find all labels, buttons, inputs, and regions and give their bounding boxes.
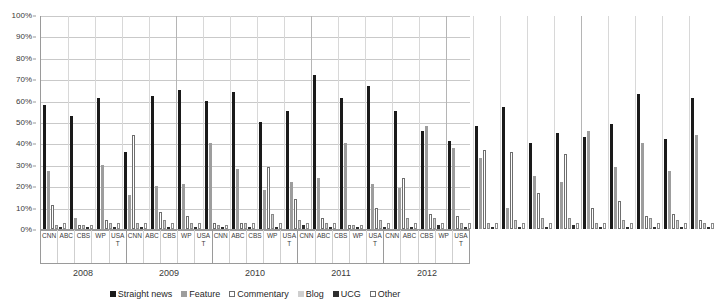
bar[interactable] xyxy=(313,75,316,229)
bar[interactable] xyxy=(421,131,424,229)
bar[interactable] xyxy=(560,182,563,229)
bar[interactable] xyxy=(506,208,509,229)
legend-item[interactable]: Other xyxy=(370,290,401,299)
bar[interactable] xyxy=(367,86,370,229)
bar[interactable] xyxy=(190,223,193,229)
bar[interactable] xyxy=(406,218,409,229)
bar[interactable] xyxy=(460,223,463,229)
bar[interactable] xyxy=(248,227,251,229)
bar[interactable] xyxy=(151,96,154,229)
bar[interactable] xyxy=(529,143,532,229)
bar[interactable] xyxy=(433,218,436,229)
bar[interactable] xyxy=(352,225,355,229)
bar[interactable] xyxy=(59,227,62,229)
bar[interactable] xyxy=(244,223,247,229)
bar[interactable] xyxy=(171,223,174,229)
bar[interactable] xyxy=(518,227,521,229)
bar[interactable] xyxy=(55,225,58,229)
bar[interactable] xyxy=(43,105,46,229)
bar[interactable] xyxy=(479,158,482,229)
bar[interactable] xyxy=(587,131,590,229)
bar[interactable] xyxy=(549,223,552,229)
bar[interactable] xyxy=(101,165,104,229)
bar[interactable] xyxy=(132,135,135,229)
bar[interactable] xyxy=(213,223,216,229)
bar[interactable] xyxy=(653,227,656,229)
bar[interactable] xyxy=(82,225,85,229)
bar[interactable] xyxy=(294,199,297,229)
bar[interactable] xyxy=(452,148,455,229)
bar[interactable] xyxy=(637,94,640,229)
legend-item[interactable]: Commentary xyxy=(229,290,289,299)
legend-item[interactable]: Feature xyxy=(181,290,220,299)
bar[interactable] xyxy=(649,218,652,229)
bar[interactable] xyxy=(356,227,359,229)
bar[interactable] xyxy=(306,223,309,229)
bar[interactable] xyxy=(622,220,625,229)
bar[interactable] xyxy=(676,220,679,229)
bar[interactable] xyxy=(47,171,50,229)
bar[interactable] xyxy=(232,92,235,229)
bar[interactable] xyxy=(441,223,444,229)
bar[interactable] xyxy=(182,184,185,229)
bar[interactable] xyxy=(74,218,77,229)
bar[interactable] xyxy=(595,223,598,229)
bar[interactable] xyxy=(225,225,228,229)
bar[interactable] xyxy=(691,98,694,229)
bar[interactable] xyxy=(495,223,498,229)
bar[interactable] xyxy=(186,216,189,229)
bar[interactable] xyxy=(699,220,702,229)
bar[interactable] xyxy=(51,205,54,229)
bar[interactable] xyxy=(599,227,602,229)
bar[interactable] xyxy=(124,152,127,229)
bar[interactable] xyxy=(448,141,451,229)
bar[interactable] xyxy=(360,225,363,229)
bar[interactable] xyxy=(583,137,586,229)
bar[interactable] xyxy=(695,135,698,229)
bar[interactable] xyxy=(333,223,336,229)
bar[interactable] xyxy=(614,167,617,229)
bar[interactable] xyxy=(109,223,112,229)
bar[interactable] xyxy=(680,227,683,229)
bar[interactable] xyxy=(564,154,567,229)
bar[interactable] xyxy=(240,223,243,229)
bar[interactable] xyxy=(383,227,386,229)
bar[interactable] xyxy=(618,201,621,229)
legend-item[interactable]: Blog xyxy=(298,290,324,299)
bar[interactable] xyxy=(402,178,405,229)
bar[interactable] xyxy=(70,116,73,229)
bar[interactable] xyxy=(136,223,139,229)
bar[interactable] xyxy=(541,218,544,229)
bar[interactable] xyxy=(90,225,93,229)
bar[interactable] xyxy=(711,223,714,229)
bar[interactable] xyxy=(267,167,270,229)
bar[interactable] xyxy=(491,227,494,229)
bar[interactable] xyxy=(209,143,212,229)
bar[interactable] xyxy=(610,124,613,229)
bar[interactable] xyxy=(221,227,224,229)
bar[interactable] xyxy=(630,223,633,229)
bar[interactable] xyxy=(576,223,579,229)
bar[interactable] xyxy=(398,188,401,229)
bar[interactable] xyxy=(128,195,131,229)
bar[interactable] xyxy=(140,227,143,229)
bar[interactable] xyxy=(645,216,648,229)
bar[interactable] xyxy=(205,101,208,229)
bar[interactable] xyxy=(657,223,660,229)
bar[interactable] xyxy=(263,190,266,229)
bar[interactable] xyxy=(425,126,428,229)
bar[interactable] xyxy=(379,220,382,229)
bar[interactable] xyxy=(410,227,413,229)
bar[interactable] xyxy=(545,227,548,229)
bar[interactable] xyxy=(487,223,490,229)
bar[interactable] xyxy=(522,223,525,229)
bar[interactable] xyxy=(178,90,181,229)
bar[interactable] xyxy=(163,220,166,229)
bar[interactable] xyxy=(275,227,278,229)
bar[interactable] xyxy=(533,176,536,230)
bar[interactable] xyxy=(321,218,324,229)
bar[interactable] xyxy=(483,150,486,229)
bar[interactable] xyxy=(641,143,644,229)
bar[interactable] xyxy=(302,225,305,229)
bar[interactable] xyxy=(340,98,343,229)
